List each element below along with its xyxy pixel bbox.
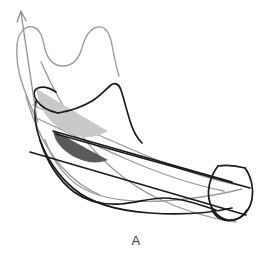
figure-caption: A — [0, 234, 272, 248]
figure-container: A — [0, 0, 272, 272]
bone-rotation-diagram — [0, 0, 272, 272]
